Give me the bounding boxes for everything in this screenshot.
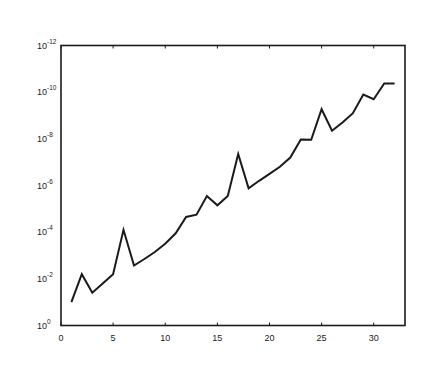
y-tick-label: 10 — [37, 134, 47, 144]
x-tick-label: 25 — [317, 333, 327, 343]
x-axis-ticks — [61, 46, 374, 326]
y-tick-label: 10 — [37, 321, 47, 331]
plot-frame — [61, 46, 405, 326]
y-tick-label: 10 — [37, 87, 47, 97]
x-axis-tick-labels: 051015202530 — [58, 333, 378, 343]
y-tick-label: 10 — [37, 181, 47, 191]
y-tick-label-exponent: -2 — [47, 271, 53, 278]
x-tick-label: 0 — [58, 333, 63, 343]
y-axis-tick-labels: 10010-210-410-610-810-1010-12 — [37, 38, 57, 331]
y-tick-label-exponent: -8 — [47, 131, 53, 138]
y-tick-label: 10 — [37, 227, 47, 237]
x-tick-label: 15 — [212, 333, 222, 343]
y-tick-label-exponent: 0 — [47, 318, 51, 325]
y-tick-label-exponent: -4 — [47, 224, 53, 231]
chart: 051015202530 10010-210-410-610-810-1010-… — [0, 0, 424, 375]
y-tick-label-exponent: -6 — [47, 178, 53, 185]
y-tick-label-exponent: -12 — [47, 38, 57, 45]
y-tick-label: 10 — [37, 274, 47, 284]
x-tick-label: 20 — [264, 333, 274, 343]
x-tick-label: 10 — [160, 333, 170, 343]
x-tick-label: 30 — [369, 333, 379, 343]
y-tick-label: 10 — [37, 41, 47, 51]
y-tick-label-exponent: -10 — [47, 84, 57, 91]
x-tick-label: 5 — [111, 333, 116, 343]
data-series-line — [71, 84, 394, 303]
